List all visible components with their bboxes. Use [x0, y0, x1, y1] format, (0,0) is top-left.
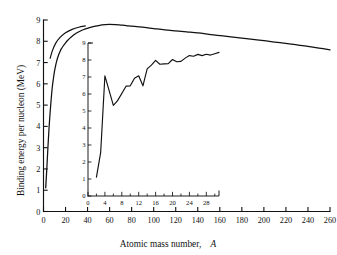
inset-y-axis-line [88, 43, 93, 196]
binding-energy-chart-figure: Binding energy per nucleon (MeV) 0123456… [0, 0, 337, 255]
inset-x-axis-tick-label: 28 [203, 199, 210, 206]
inset-y-axis-tick-label: 9 [82, 39, 86, 46]
x-axis-tick-label: 120 [170, 216, 182, 225]
x-axis-tick-label: 60 [106, 216, 114, 225]
x-axis-tick-label: 180 [236, 216, 248, 225]
y-axis-tick-labels: 0123456789 [36, 16, 40, 217]
inset-y-axis-tick-label: 1 [82, 175, 85, 182]
inset-y-axis-tick-label: 2 [82, 158, 85, 165]
inset-x-axis-tick-label: 20 [169, 199, 176, 206]
inset-x-axis-tick-label: 12 [135, 199, 142, 206]
x-axis-tick-label: 140 [192, 216, 204, 225]
x-axis-tick-label: 240 [302, 216, 314, 225]
x-axis-tick-label: 0 [41, 216, 45, 225]
inset-y-axis-tick-label: 8 [82, 56, 86, 63]
y-axis-tick-label: 5 [36, 101, 40, 110]
x-axis-tick-label: 80 [128, 216, 136, 225]
y-axis-tick-label: 2 [36, 165, 40, 174]
inset-panel: 0123456789 0481216202428 [82, 39, 219, 205]
inset-y-axis-tick-label: 3 [82, 141, 86, 148]
x-axis-tick-label: 160 [214, 216, 226, 225]
inset-x-axis-tick-labels: 0481216202428 [86, 199, 210, 206]
x-axis-tick-label: 100 [148, 216, 160, 225]
inset-y-axis-tick-label: 5 [82, 107, 86, 114]
inset-x-axis-tick-label: 4 [103, 199, 107, 206]
y-axis-tick-label: 4 [36, 122, 40, 131]
x-axis-tick-label: 40 [83, 216, 91, 225]
inset-y-axis-tick-label: 7 [82, 73, 86, 80]
y-axis-tick-label: 1 [36, 186, 40, 195]
inset-x-axis-tick-label: 0 [86, 199, 90, 206]
inset-y-axis-tick-label: 6 [82, 90, 86, 97]
inset-x-axis-tick-label: 8 [120, 199, 124, 206]
x-axis-ticks [44, 207, 331, 212]
x-axis-tick-label: 260 [324, 216, 336, 225]
y-axis-tick-label: 7 [36, 59, 40, 68]
inset-y-axis-ticks [88, 43, 91, 196]
y-axis-tick-label: 9 [36, 16, 40, 25]
inset-binding-energy-curve [96, 52, 219, 177]
y-axis-tick-label: 0 [36, 208, 40, 217]
y-axis-tick-label: 8 [36, 37, 40, 46]
inset-x-axis-ticks [88, 192, 215, 196]
inset-x-axis-line [88, 191, 219, 196]
x-axis-tick-label: 20 [61, 216, 69, 225]
y-axis-tick-label: 3 [36, 144, 40, 153]
binding-energy-chart-svg: Binding energy per nucleon (MeV) 0123456… [0, 0, 337, 255]
inset-x-axis-tick-label: 24 [186, 199, 193, 206]
x-axis-tick-labels: 020406080100120140160180200220240260 [41, 216, 336, 225]
inset-x-axis-tick-label: 16 [152, 199, 159, 206]
inset-y-axis-tick-labels: 0123456789 [82, 39, 86, 199]
x-axis-tick-label: 200 [258, 216, 270, 225]
main-axes: 0123456789 02040608010012014016018020022… [36, 16, 336, 225]
y-axis-title: Binding energy per nucleon (MeV) [16, 65, 27, 196]
inset-y-axis-tick-label: 4 [82, 124, 86, 131]
x-axis-title: Atomic mass number, A [120, 239, 217, 249]
x-axis-tick-label: 220 [280, 216, 292, 225]
y-axis-tick-label: 6 [36, 80, 40, 89]
